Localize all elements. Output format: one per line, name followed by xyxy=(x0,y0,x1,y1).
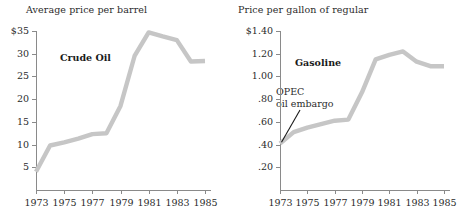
y-tick-label: 30 xyxy=(0,48,29,59)
y-tick-label: 25 xyxy=(0,70,29,81)
chart-panel-gasoline: Price per gallon of regular Gasoline OPE… xyxy=(238,0,476,218)
y-tick-label: 20 xyxy=(0,93,29,104)
chart-canvas-crude-oil xyxy=(0,0,238,218)
y-tick-label: .40 xyxy=(238,139,273,150)
y-tick-label: $1.40 xyxy=(238,25,273,36)
data-line-gasoline xyxy=(280,51,444,143)
figure-root: Average price per barrel Crude Oil $3530… xyxy=(0,0,476,218)
x-tick-label: 1985 xyxy=(423,197,467,208)
y-tick-label: 5 xyxy=(0,161,29,172)
y-tick-label: 15 xyxy=(0,116,29,127)
y-tick-label: .20 xyxy=(238,161,273,172)
axes-gasoline xyxy=(281,31,451,191)
y-tick-label: 10 xyxy=(0,139,29,150)
y-tick-label: $35 xyxy=(0,25,29,36)
x-tick-label: 1985 xyxy=(184,197,228,208)
y-tick-label: 1.00 xyxy=(238,70,273,81)
ticks-gasoline xyxy=(276,32,445,195)
chart-canvas-gasoline xyxy=(238,0,476,218)
chart-panel-crude-oil: Average price per barrel Crude Oil $3530… xyxy=(0,0,238,218)
y-tick-label: .60 xyxy=(238,116,273,127)
y-tick-label: 1.20 xyxy=(238,48,273,59)
y-tick-label: .80 xyxy=(238,93,273,104)
data-line-crude-oil xyxy=(36,32,205,171)
annotation-leader-line xyxy=(282,110,301,142)
